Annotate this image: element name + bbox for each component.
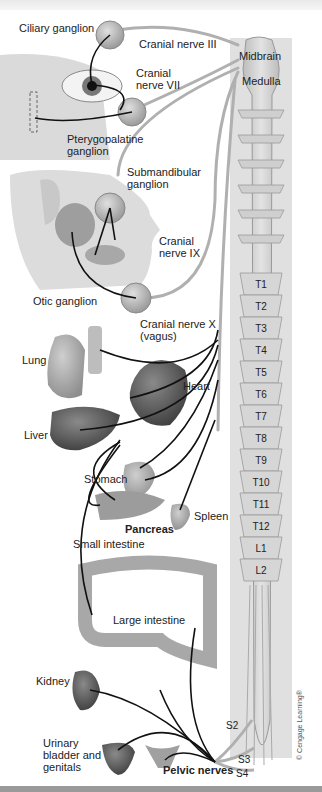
- label-kidney: Kidney: [36, 675, 70, 687]
- label-heart: Heart: [183, 380, 210, 392]
- label-cranial-nerve-iii: Cranial nerve III: [139, 38, 217, 50]
- label-urinary-bladder-genitals: Urinary bladder and genitals: [43, 737, 113, 773]
- label-liver: Liver: [24, 429, 48, 441]
- label-small-intestine: Small intestine: [73, 538, 145, 550]
- segment-t5: T5: [246, 367, 276, 378]
- label-lung: Lung: [22, 354, 46, 366]
- bottom-border: [0, 786, 322, 792]
- segment-l2: L2: [246, 565, 276, 576]
- label-stomach: Stomach: [84, 473, 127, 485]
- label-midbrain: Midbrain: [239, 50, 281, 62]
- label-otic-ganglion: Otic ganglion: [33, 295, 97, 307]
- label-cranial-nerve-vii: Cranial nerve VII: [136, 67, 196, 91]
- segment-t3: T3: [246, 323, 276, 334]
- label-cranial-nerve-ix: Cranial nerve IX: [159, 235, 219, 259]
- label-s3: S3: [238, 754, 250, 766]
- segment-l1: L1: [246, 543, 276, 554]
- label-s2: S2: [226, 720, 238, 732]
- segment-t11: T11: [246, 499, 276, 510]
- segment-t1: T1: [246, 279, 276, 290]
- segment-t8: T8: [246, 433, 276, 444]
- label-spleen: Spleen: [194, 510, 228, 522]
- label-pterygopalatine-ganglion: Pterygopalatine ganglion: [67, 133, 157, 157]
- label-large-intestine: Large intestine: [113, 614, 185, 626]
- segment-t6: T6: [246, 389, 276, 400]
- label-pancreas: Pancreas: [125, 523, 174, 535]
- label-medulla: Medulla: [242, 75, 281, 87]
- label-ciliary-ganglion: Ciliary ganglion: [19, 22, 94, 34]
- copyright-notice: © Cengage Learning®: [296, 690, 303, 760]
- label-pelvic-nerves: Pelvic nerves: [163, 764, 233, 776]
- segment-t4: T4: [246, 345, 276, 356]
- organs: [47, 326, 210, 775]
- segment-t2: T2: [246, 301, 276, 312]
- label-submandibular-ganglion: Submandibular ganglion: [127, 166, 217, 190]
- segment-t9: T9: [246, 455, 276, 466]
- label-s4: S4: [236, 768, 248, 780]
- label-cranial-nerve-x: Cranial nerve X (vagus): [140, 318, 240, 342]
- segment-t12: T12: [246, 521, 276, 532]
- spinal-cord: [230, 37, 292, 765]
- segment-t7: T7: [246, 411, 276, 422]
- segment-t10: T10: [246, 477, 276, 488]
